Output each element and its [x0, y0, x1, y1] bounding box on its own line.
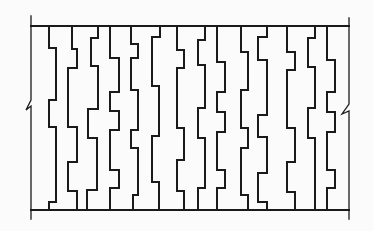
stepped-line-line-6	[152, 26, 160, 210]
right-border-break-symbol	[342, 18, 349, 219]
stepped-line-line-11	[287, 26, 295, 210]
left-border-break-symbol	[26, 16, 31, 219]
stepped-line-line-13	[327, 26, 335, 210]
stepped-line-line-8	[198, 26, 205, 210]
stepped-line-line-10	[258, 26, 267, 210]
stepped-line-line-1	[49, 26, 56, 210]
stepped-line-line-2	[68, 26, 77, 210]
stepped-line-line-14	[241, 26, 248, 210]
stepped-line-line-7	[177, 26, 184, 210]
stepped-line-line-12	[308, 26, 315, 210]
stepped-line-line-9	[217, 26, 225, 210]
stepped-line-line-5	[131, 26, 138, 210]
stepped-joint-diagram	[0, 0, 373, 231]
stepped-lines-group	[49, 26, 335, 210]
stepped-line-line-3	[87, 26, 98, 210]
diagram-canvas	[0, 0, 373, 231]
stepped-line-line-4	[110, 26, 119, 210]
